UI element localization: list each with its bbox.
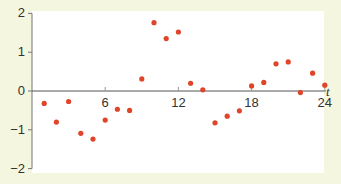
- data-point: [188, 81, 193, 86]
- data-point: [310, 71, 315, 76]
- data-point: [225, 114, 230, 119]
- data-point: [151, 20, 156, 25]
- data-point: [127, 108, 132, 113]
- data-point: [78, 131, 83, 136]
- data-point: [273, 61, 278, 66]
- x-tick-label: 6: [102, 95, 109, 110]
- data-point: [237, 108, 242, 113]
- data-point: [176, 29, 181, 34]
- data-point: [54, 119, 59, 124]
- data-point: [139, 76, 144, 81]
- x-axis-label: t: [326, 84, 330, 99]
- data-point: [42, 101, 47, 106]
- scatter-chart: 210−1−2 6121824 t: [0, 0, 341, 184]
- data-point: [200, 87, 205, 92]
- y-tick-label: 1: [18, 44, 25, 59]
- data-point: [164, 36, 169, 41]
- data-point: [90, 137, 95, 142]
- y-tick-label: 2: [18, 5, 25, 20]
- y-tick-label: −1: [10, 122, 25, 137]
- data-point: [212, 120, 217, 125]
- y-tick-label: −2: [10, 161, 25, 176]
- data-point: [261, 80, 266, 85]
- y-tick-label: 0: [18, 83, 25, 98]
- x-tick-label: 12: [171, 95, 185, 110]
- data-point: [115, 107, 120, 112]
- data-point: [286, 59, 291, 64]
- x-tick-label: 18: [244, 95, 258, 110]
- x-tick-label: 24: [318, 95, 332, 110]
- y-axis: 210−1−2: [10, 5, 32, 175]
- plot-area: [32, 11, 324, 173]
- data-point: [66, 99, 71, 104]
- data-point: [298, 90, 303, 95]
- data-point: [249, 83, 254, 88]
- data-point: [103, 118, 108, 123]
